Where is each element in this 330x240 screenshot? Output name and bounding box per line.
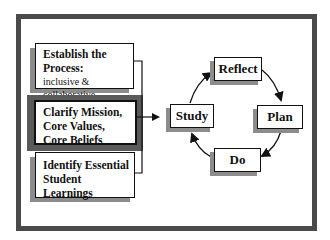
- reflect-label: Reflect: [219, 61, 258, 77]
- study-box: Study: [170, 104, 214, 128]
- study-label: Study: [176, 108, 209, 124]
- do-label: Do: [230, 152, 246, 168]
- reflect-box: Reflect: [214, 57, 262, 81]
- plan-label: Plan: [267, 109, 292, 125]
- do-box: Do: [214, 148, 261, 172]
- plan-box: Plan: [257, 105, 303, 129]
